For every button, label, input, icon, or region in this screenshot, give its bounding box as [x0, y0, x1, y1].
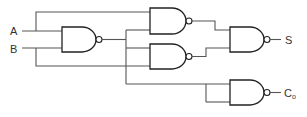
nand-gate-3 [150, 44, 192, 69]
nand-gate-2 [150, 8, 192, 34]
gate4-input-wires [192, 21, 230, 57]
nand-half-adder-diagram: A B S [0, 0, 307, 117]
nand-gate-1 [62, 27, 102, 52]
output-label-s: S [285, 34, 292, 46]
input-label-a: A [10, 25, 18, 37]
nand-gate-4 [230, 27, 281, 52]
input-label-b: B [10, 43, 17, 55]
output-label-carry: Co [284, 87, 296, 100]
gate5-input-wires [206, 84, 230, 102]
nand-gate-5 [230, 80, 281, 105]
